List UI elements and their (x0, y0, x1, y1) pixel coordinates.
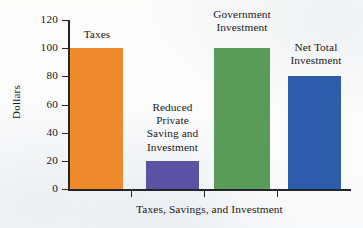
y-axis-label-80: 80 (28, 70, 58, 81)
x-axis-tick-2 (204, 190, 205, 197)
y-axis-tick-40 (62, 133, 69, 134)
y-axis-tick-80 (62, 76, 69, 77)
y-axis-label-60: 60 (28, 99, 58, 110)
y-axis-tick-100 (62, 48, 69, 49)
bar-label-taxes: Taxes (63, 28, 131, 41)
x-axis-line (68, 189, 351, 191)
y-axis-tick-20 (62, 161, 69, 162)
y-axis-tick-60 (62, 105, 69, 106)
bar-label-reduced-private-saving-and-investment: Reduced Private Saving and Investment (132, 101, 213, 154)
y-axis-title: Dollars (10, 67, 22, 137)
bar-government-investment[interactable] (214, 48, 270, 189)
bar-taxes[interactable] (70, 48, 123, 189)
y-axis-label-40: 40 (28, 127, 58, 138)
y-axis-label-100: 100 (28, 42, 58, 53)
bar-net-total-investment[interactable] (288, 76, 341, 189)
y-axis-tick-120 (62, 20, 69, 21)
bar-reduced-private-saving-and-investment[interactable] (146, 161, 199, 189)
x-axis-title: Taxes, Savings, and Investment (68, 203, 351, 215)
y-axis-label-20: 20 (28, 155, 58, 166)
bar-label-government-investment: Government Investment (201, 8, 283, 34)
x-axis-tick-1 (131, 190, 132, 197)
bar-chart-figure: 120 100 80 60 40 20 0 Dollars Taxes, Sav… (0, 0, 363, 228)
bar-label-net-total-investment: Net Total Investment (280, 41, 352, 67)
y-axis-label-120: 120 (28, 14, 58, 25)
y-axis-label-0: 0 (28, 183, 58, 194)
x-axis-tick-3 (277, 190, 278, 197)
